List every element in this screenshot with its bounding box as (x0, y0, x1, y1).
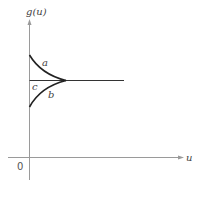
origin-label: 0 (17, 161, 23, 172)
y-axis-label: g(u) (26, 6, 47, 17)
y-axis (28, 19, 32, 180)
curve-a-label: a (42, 57, 48, 68)
diagram-canvas: g(u) u 0 a c b (0, 0, 200, 197)
curve-b-label: b (48, 89, 54, 100)
x-axis (8, 156, 184, 160)
x-axis-label: u (186, 152, 192, 163)
x-axis-arrow-icon (178, 156, 184, 160)
curve-c-label: c (32, 81, 38, 92)
y-axis-arrow-icon (28, 19, 32, 25)
